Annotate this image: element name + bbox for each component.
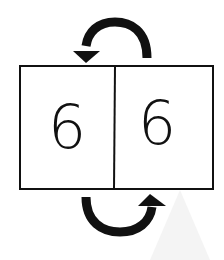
box-left-digit: 6	[37, 97, 97, 157]
curved-arrow-left-icon	[73, 22, 147, 63]
curved-arrow-right-icon	[86, 194, 166, 232]
box-right-digit: 6	[127, 93, 187, 153]
